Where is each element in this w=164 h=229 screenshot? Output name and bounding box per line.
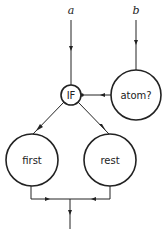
- input-a-label: a: [68, 4, 75, 17]
- input-b-label: b: [132, 4, 139, 17]
- edge-atom-to-if: [80, 93, 111, 97]
- node-if: IF: [61, 85, 81, 105]
- edge-if-to-first: [33, 102, 64, 134]
- edge-merge-to-output: [31, 186, 110, 229]
- edge-if-to-rest: [78, 102, 109, 134]
- node-rest-label: rest: [100, 155, 119, 166]
- node-atom: atom?: [111, 70, 161, 120]
- dataflow-diagram: a b IF atom?: [0, 0, 164, 229]
- node-if-label: IF: [67, 90, 76, 101]
- node-first-label: first: [22, 155, 42, 166]
- node-first: first: [6, 134, 58, 186]
- node-atom-label: atom?: [120, 90, 151, 101]
- edge-b-to-atom: [134, 20, 138, 70]
- node-rest: rest: [84, 134, 136, 186]
- edge-a-to-if: [69, 20, 73, 86]
